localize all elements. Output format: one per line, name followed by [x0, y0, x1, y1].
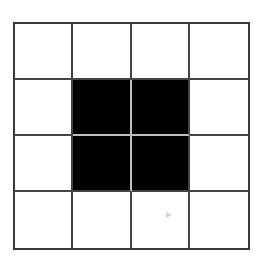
grid-cell-r2-c1[interactable]: [73, 136, 131, 192]
game-board: [13, 22, 250, 250]
grid-cell-r3-c0[interactable]: [15, 192, 73, 248]
grid-cell-r1-c1[interactable]: [73, 80, 131, 136]
grid-cell-r2-c3[interactable]: [190, 136, 248, 192]
grid-cell-r0-c0[interactable]: [15, 24, 73, 80]
grid-cell-r0-c1[interactable]: [73, 24, 131, 80]
grid-cell-r2-c2[interactable]: [132, 136, 190, 192]
grid-cell-r2-c0[interactable]: [15, 136, 73, 192]
grid-cell-r3-c1[interactable]: [73, 192, 131, 248]
grid-cell-r3-c3[interactable]: [190, 192, 248, 248]
grid-cell-r3-c2[interactable]: [132, 192, 190, 248]
mouse-cursor-icon: [166, 212, 172, 218]
grid-cell-r0-c3[interactable]: [190, 24, 248, 80]
grid-cell-r1-c0[interactable]: [15, 80, 73, 136]
grid-cell-r0-c2[interactable]: [132, 24, 190, 80]
grid-cell-r1-c3[interactable]: [190, 80, 248, 136]
grid-cell-r1-c2[interactable]: [132, 80, 190, 136]
